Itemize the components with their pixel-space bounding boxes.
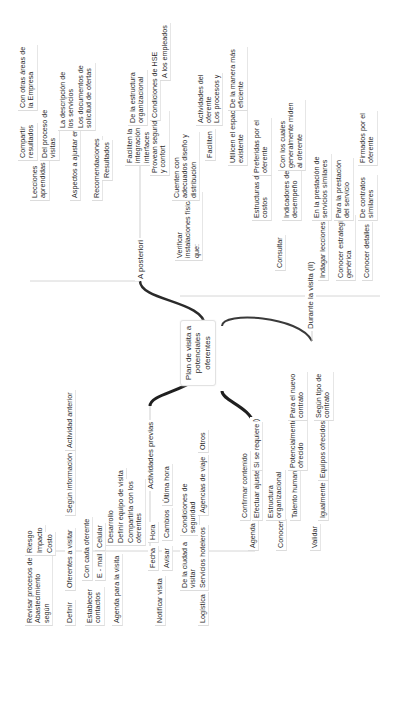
node-otros[interactable]: Otros [198, 430, 209, 453]
node-avisar[interactable]: Avisar [162, 546, 173, 571]
node-prestacion-similares[interactable]: En la prestación de servicios similares [312, 154, 332, 221]
root-node[interactable]: Plan de visita a potenciales oferentes [180, 320, 216, 386]
node-estructuras-costos[interactable]: Estructuras de costos [252, 170, 272, 221]
node-de-la-estructura[interactable]: De la estructura organizacional [128, 70, 148, 126]
node-definir[interactable]: Definir [65, 600, 76, 626]
node-firmados-por-oferente[interactable]: Firmados por el oferente [358, 111, 378, 166]
node-indagar-lecciones[interactable]: Indagar lecciones [318, 220, 329, 281]
node-indicadores-desempeno[interactable]: Indicadores de desempeño [282, 169, 302, 221]
node-resultados[interactable]: Resultados [102, 140, 113, 181]
node-ultima-hora[interactable]: Última hora [162, 464, 173, 506]
node-celular[interactable]: Celular [95, 523, 106, 551]
node-servicios-hoteleros[interactable]: Servicios hoteleros [198, 525, 209, 591]
node-agencias-de-viaje[interactable]: Agencias de viaje [198, 455, 209, 516]
node-de-contratos-similares[interactable]: De contratos similares [358, 175, 378, 221]
node-a-los-empleados[interactable]: A los empleados [160, 23, 171, 81]
node-equipos-ofrecidos[interactable]: Equipos ofrecidos [318, 419, 329, 481]
node-efectuar-ajustes[interactable]: Efectuar ajustes [252, 464, 263, 521]
node-con-cada-oferente[interactable]: Con cada oferente [82, 517, 93, 581]
node-agenda[interactable]: Agenda [248, 521, 259, 551]
node-consultar[interactable]: Consultar [275, 235, 286, 271]
mind-map-canvas: Plan de visita a potenciales oferentes A… [0, 0, 397, 721]
node-compartirla[interactable]: Compartirla con los oferentes [126, 479, 146, 546]
node-preferidas-por-oferente[interactable]: Preferidas por el oferente [252, 118, 272, 176]
node-faciliten[interactable]: Faciliten [205, 129, 216, 161]
node-con-los-cuales[interactable]: Con los cuales generalmente miden al ofe… [278, 100, 306, 171]
node-para-el-nuevo-contrato[interactable]: Para el nuevo contrato [288, 372, 308, 421]
node-cuenten-con[interactable]: Cuenten con adecuados diseño y distribuc… [172, 132, 200, 201]
branch-a-posteriori[interactable]: A posteriori [135, 238, 146, 281]
node-del-proceso-visitas[interactable]: Del proceso de visitas [40, 108, 60, 161]
node-hora[interactable]: Hora [148, 522, 159, 543]
node-verificar-instalaciones[interactable]: Verificar instalaciones físicas que: [175, 192, 203, 261]
node-conocer-detalles[interactable]: Conocer detalles [362, 222, 373, 281]
node-confirmar-contenido[interactable]: Confirmar contenido [240, 451, 251, 521]
node-notificar-visita[interactable]: Notificar visita [155, 576, 166, 626]
node-agenda-para-la-visita[interactable]: Agenda para la visita [112, 554, 123, 626]
node-con-otras-areas[interactable]: Con otras áreas de la Empresa [18, 45, 38, 111]
node-los-procesos[interactable]: Los procesos y [212, 73, 223, 126]
node-actividad-anterior[interactable]: Actividad anterior [65, 390, 76, 451]
branch-durante-visita-2[interactable]: Durante la visita (II) [305, 259, 316, 331]
node-faciliten-integracion[interactable]: Faciliten la integración e interfaces [125, 120, 153, 166]
node-costo[interactable]: Costo [45, 532, 56, 556]
node-segun-tipo-contrato[interactable]: Según tipo de contrato [314, 372, 334, 421]
node-utilicen-espacio[interactable]: Utilicen el espacio existente [228, 103, 248, 166]
node-potencialmente-ofrecido[interactable]: Potencialmente ofrecido [288, 416, 308, 471]
node-igualmente[interactable]: Igualmente [318, 480, 329, 521]
node-de-la-ciudad[interactable]: De la ciudad a visitar [180, 540, 200, 591]
node-de-la-manera-mas[interactable]: De la manera más eficiente [228, 47, 248, 111]
node-condiciones-seguridad[interactable]: Condiciones de seguridad [180, 481, 200, 536]
node-compartir-resultados[interactable]: Compartir resultados [18, 123, 38, 161]
node-cambios[interactable]: Cambios [162, 508, 173, 541]
node-conocer[interactable]: Conocer [276, 519, 287, 551]
node-revisar-procesos[interactable]: Revisar procesos de Abastecimiento según [25, 555, 53, 626]
node-email[interactable]: E - mail [95, 552, 106, 581]
node-talento-humano[interactable]: Talento humano [290, 465, 301, 521]
node-aspectos-a-ajustar[interactable]: Aspectos a ajustar en [70, 127, 81, 201]
node-validar[interactable]: Validar [310, 524, 321, 551]
node-documentos-solicitud[interactable]: Los documentos de solicitud de ofertas [76, 63, 96, 131]
node-logistica[interactable]: Logística [198, 592, 209, 626]
node-establecer-contactos[interactable]: Establecer contactos [85, 587, 105, 626]
branch-actividades-previas[interactable]: Actividades previas [145, 420, 156, 491]
node-segun-informacion[interactable]: Según información [65, 451, 76, 516]
node-si-se-requiere[interactable]: Si se requiere [252, 422, 263, 471]
node-fecha[interactable]: Fecha [148, 546, 159, 571]
node-descripcion-servicios[interactable]: La descripción de los servicios [58, 70, 78, 131]
node-conocer-estrategia[interactable]: Conocer estrategia genérica [336, 215, 356, 281]
node-oferentes-a-visitar[interactable]: Oferentes a visitar [65, 528, 76, 591]
node-para-la-prestacion[interactable]: Para la prestación del servicio [334, 158, 354, 221]
node-lecciones-aprendidas[interactable]: Lecciones aprendidas [30, 160, 50, 201]
node-estructura-organizacional[interactable]: Estructura organizacional [266, 470, 286, 521]
